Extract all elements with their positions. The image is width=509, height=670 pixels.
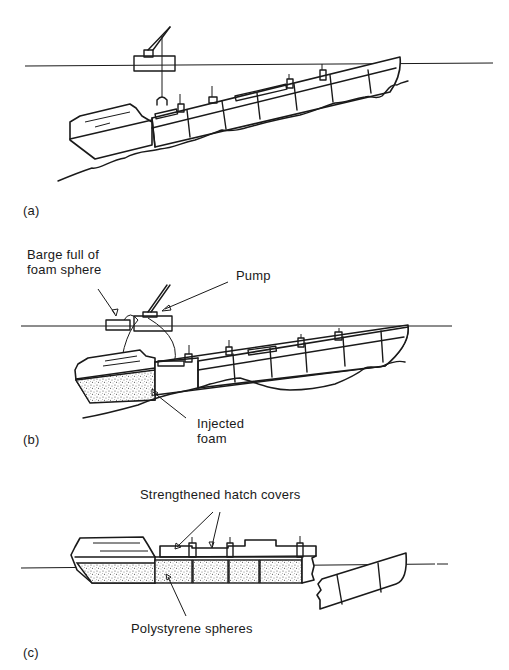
ship-b [75, 325, 408, 403]
annotation-hatch-covers: Strengthened hatch covers [140, 487, 300, 502]
pump-barge [134, 316, 172, 331]
panel-label-c: (c) [23, 645, 39, 660]
annotation-injected-foam-line1: Injected [197, 416, 244, 431]
annotation-polystyrene-spheres: Polystyrene spheres [131, 621, 253, 636]
leader-pump [165, 282, 228, 309]
annotation-barge-line2: foam sphere [27, 262, 101, 277]
leader-hatch-2 [212, 512, 220, 546]
panel-label-a: (a) [23, 203, 40, 218]
annotation-injected-foam-line2: foam [197, 431, 227, 446]
annotation-pump: Pump [236, 268, 271, 283]
leader-hatch-1 [177, 512, 213, 547]
broken-bow [317, 553, 406, 609]
sunken-ship [70, 57, 400, 159]
panel-c [21, 512, 448, 616]
refloated-ship [71, 536, 316, 583]
salvage-diagram [0, 0, 509, 670]
water-surface-a [25, 63, 493, 66]
grab-icon [157, 97, 167, 105]
foam-barge [106, 320, 130, 330]
crane-barge [134, 27, 175, 105]
panel-b [21, 282, 452, 418]
leader-foam [153, 392, 186, 418]
annotation-barge-line1: Barge full of [27, 247, 99, 262]
panel-a [25, 27, 493, 181]
panel-label-b: (b) [23, 432, 40, 447]
